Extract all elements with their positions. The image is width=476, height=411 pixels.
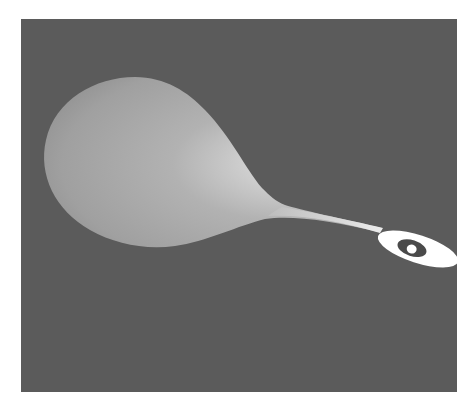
teardrop-surface	[44, 77, 382, 247]
render-canvas	[0, 0, 476, 411]
ring	[374, 223, 463, 276]
